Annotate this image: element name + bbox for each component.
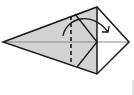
- paper-white-region: [97, 7, 129, 74]
- origami-diagram: [0, 0, 134, 95]
- paper-shaded-region: [3, 7, 97, 74]
